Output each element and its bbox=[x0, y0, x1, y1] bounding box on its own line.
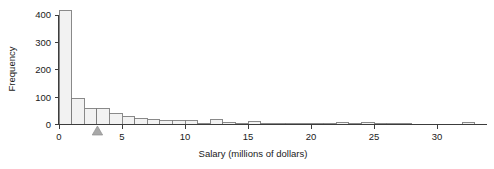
x-tick-label: 20 bbox=[306, 131, 317, 142]
x-tick-label: 25 bbox=[369, 131, 380, 142]
histogram-bar bbox=[72, 98, 85, 124]
x-axis-title: Salary (millions of dollars) bbox=[199, 148, 308, 159]
histogram-bar bbox=[160, 121, 173, 125]
histogram-bars bbox=[59, 11, 475, 125]
histogram-bar bbox=[172, 121, 185, 125]
y-tick-label: 200 bbox=[35, 64, 51, 75]
y-tick-label: 0 bbox=[46, 119, 51, 130]
median-marker-icon bbox=[92, 126, 102, 135]
y-axis-title: Frequency bbox=[6, 46, 17, 91]
x-tick-label: 0 bbox=[56, 131, 61, 142]
histogram-bar bbox=[147, 119, 160, 124]
y-tick-label: 300 bbox=[35, 37, 51, 48]
x-tick-label: 30 bbox=[432, 131, 443, 142]
histogram-bar bbox=[135, 118, 148, 124]
histogram-bar bbox=[59, 11, 72, 125]
y-axis-ticks: 0100200300400 bbox=[35, 9, 59, 129]
histogram-bar bbox=[122, 116, 135, 124]
salary-histogram-chart: 051015202530 0100200300400 Salary (milli… bbox=[0, 0, 494, 169]
y-tick-label: 400 bbox=[35, 9, 51, 20]
x-tick-label: 10 bbox=[180, 131, 191, 142]
histogram-bar bbox=[210, 119, 223, 124]
x-tick-label: 15 bbox=[243, 131, 254, 142]
histogram-bar bbox=[97, 108, 110, 124]
x-tick-label: 5 bbox=[119, 131, 124, 142]
histogram-bar bbox=[185, 121, 198, 125]
y-tick-label: 100 bbox=[35, 92, 51, 103]
x-axis-ticks: 051015202530 bbox=[56, 125, 442, 142]
histogram-bar bbox=[84, 108, 97, 124]
histogram-figure: 051015202530 0100200300400 Salary (milli… bbox=[0, 0, 494, 169]
median-marker-group bbox=[92, 126, 102, 135]
histogram-bar bbox=[109, 114, 122, 125]
